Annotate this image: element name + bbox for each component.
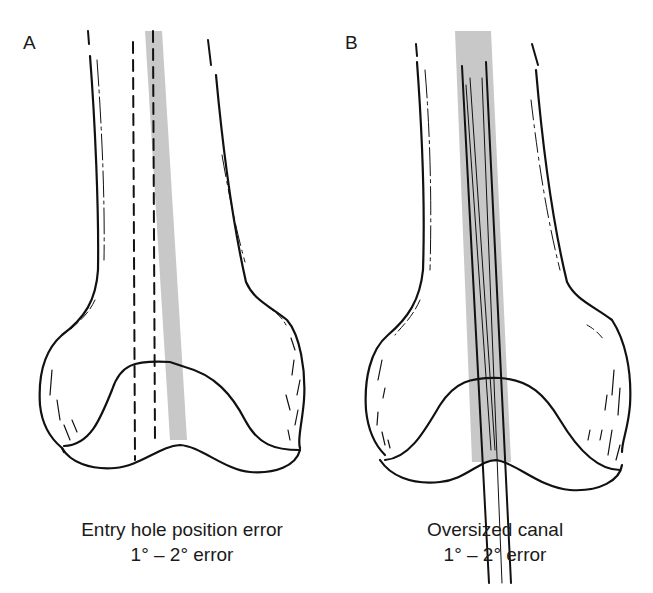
articular-surface-a (62, 445, 300, 472)
cortex-line-right-a (222, 155, 245, 262)
canal-shading-a (145, 31, 187, 440)
caption-a-line1: Entry hole position error (32, 517, 332, 542)
panel-a-drawing (40, 31, 305, 472)
panel-label-a: A (23, 33, 36, 52)
caption-b: Oversized canal 1° – 2° error (345, 517, 645, 567)
panel-b-drawing (366, 31, 631, 583)
caption-b-line1: Oversized canal (345, 517, 645, 542)
femur-outline-right-a (216, 75, 304, 448)
guide-line-a-left (133, 42, 135, 460)
femur-outline-right-b (536, 70, 630, 452)
femur-outline-left-b (366, 62, 424, 455)
cortex-line-right-b (531, 100, 560, 270)
caption-b-line2: 1° – 2° error (345, 542, 645, 567)
panel-label-b: B (345, 33, 358, 52)
caption-a-line2: 1° – 2° error (32, 542, 332, 567)
femur-outline-left-a (40, 56, 98, 452)
articular-surface-b (380, 460, 622, 490)
caption-a: Entry hole position error 1° – 2° error (32, 517, 332, 567)
femur-diagram (0, 0, 653, 593)
cortex-line-left-b (425, 70, 431, 270)
